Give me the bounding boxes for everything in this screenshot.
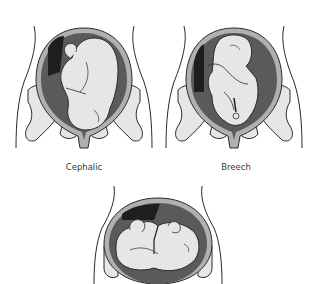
cephalic-label: Cephalic [24,162,144,172]
cephalic-illustration [14,22,154,150]
breech-illustration [164,22,304,150]
transverse-panel [88,184,228,284]
breech-label: Breech [176,162,296,172]
breech-panel [164,22,304,150]
cephalic-panel [14,22,154,150]
transverse-illustration [88,184,228,284]
